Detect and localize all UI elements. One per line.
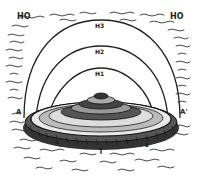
label-edge-a: A (16, 109, 21, 116)
mountain-summit (94, 93, 108, 99)
label-dome-h2: H2 (95, 49, 104, 55)
diagram-canvas: HO HO H3 H2 H1 A A' P B (0, 0, 202, 177)
label-dome-h1: H1 (95, 71, 104, 77)
label-edge-a-prime: A' (180, 109, 188, 116)
label-under-b: B (145, 143, 149, 148)
earth-disk (23, 93, 179, 154)
label-under-p: P (55, 141, 59, 146)
label-dome-h3: H3 (95, 23, 104, 29)
label-ho-right: HO (170, 13, 184, 21)
label-ho-left: HO (17, 13, 31, 21)
